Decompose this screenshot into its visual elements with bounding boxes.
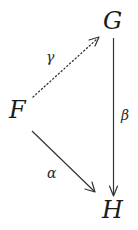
commutative-diagram: G F H γ β α (0, 0, 138, 230)
node-g: G (103, 9, 122, 33)
arrow-beta (110, 38, 118, 196)
label-alpha: α (47, 166, 56, 180)
arrow-gamma (33, 37, 99, 97)
node-h: H (102, 198, 123, 222)
node-f: F (9, 98, 26, 122)
label-gamma: γ (46, 50, 54, 64)
label-beta: β (121, 108, 129, 122)
arrow-alpha (32, 131, 95, 192)
